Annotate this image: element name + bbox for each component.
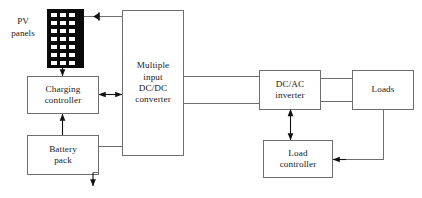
diode-icon xyxy=(93,13,99,21)
dcac-inverter-box xyxy=(260,71,321,110)
load-controller-box xyxy=(264,141,333,178)
battery-output-lead xyxy=(93,162,99,173)
battery-pack-box xyxy=(28,136,99,175)
dcdc-converter-box xyxy=(123,11,184,156)
block-diagram-canvas: PV panels Charging controller Battery pa… xyxy=(0,0,422,198)
pv-array-icon xyxy=(47,9,84,68)
loads-box xyxy=(353,71,414,110)
pv-panels-label: PV panels xyxy=(2,16,44,39)
charging-controller-box xyxy=(28,77,99,114)
loads-feedback-line xyxy=(338,110,384,160)
diagram-vector-layer xyxy=(0,0,422,198)
